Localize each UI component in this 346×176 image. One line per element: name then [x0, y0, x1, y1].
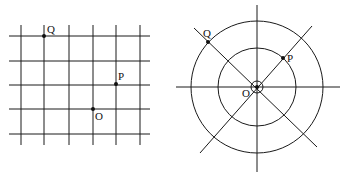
point-label-o: O	[95, 110, 103, 122]
polar-axis-line	[200, 26, 312, 153]
cartesian-grid-diagram: QPO	[9, 23, 150, 145]
polar-point-o	[255, 85, 259, 89]
polar-point-label-p: P	[287, 52, 293, 64]
polar-point-p	[281, 56, 285, 60]
diagram-canvas: QPO QPO	[0, 0, 346, 176]
polar-point-label-o: O	[242, 87, 250, 99]
polar-point-q	[206, 40, 210, 44]
point-label-p: P	[118, 70, 124, 82]
polar-point-label-q: Q	[203, 27, 211, 39]
point-p	[114, 82, 118, 86]
polar-grid-diagram: QPO	[176, 5, 340, 172]
point-label-q: Q	[47, 23, 55, 35]
point-q	[42, 34, 46, 38]
